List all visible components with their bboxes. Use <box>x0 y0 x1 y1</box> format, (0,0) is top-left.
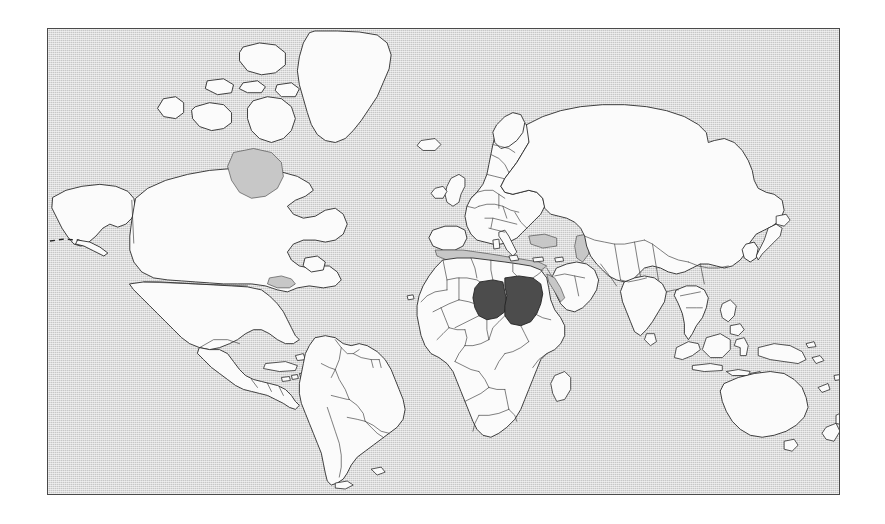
landmass-arctic-islet-b <box>240 81 266 93</box>
page-title: World locator map <box>0 21 1 22</box>
landmass-cyprus <box>555 257 564 262</box>
landmass-cuba <box>263 362 297 372</box>
landmass-borneo <box>702 334 730 358</box>
landmass-iceland <box>417 139 441 151</box>
landmass-ireland <box>431 186 447 198</box>
landmass-greenland <box>297 31 391 143</box>
landmass-sulawesi <box>734 338 748 356</box>
landmass-madagascar <box>551 372 571 402</box>
landmass-pacific-islet-a <box>806 342 816 348</box>
landmass-victoria-island <box>192 103 232 131</box>
landmass-lesser-sunda <box>726 370 750 376</box>
region-africa <box>407 258 571 437</box>
landmass-sri-lanka <box>644 334 656 346</box>
landmass-iberia <box>429 226 467 250</box>
landmass-indian-subcontinent <box>621 276 667 336</box>
world-map-svg <box>48 29 839 494</box>
landmass-new-caledonia <box>818 383 830 392</box>
landmass-new-zealand-south <box>822 423 839 441</box>
landmass-arctic-islet-c <box>275 83 299 97</box>
landmass-hokkaido <box>776 214 790 226</box>
landmass-banks-island <box>158 97 184 119</box>
landmass-sardinia-corsica <box>493 239 500 249</box>
landmass-sicily <box>509 255 519 261</box>
landmass-sumatra <box>674 342 700 360</box>
region-south-america <box>291 336 405 489</box>
landmass-philippines <box>720 300 736 322</box>
landmass-ellesmere-island <box>240 43 286 75</box>
landmass-alaska <box>52 184 136 246</box>
landmass-fiji <box>834 375 839 381</box>
landmass-philippines-south <box>730 324 744 336</box>
landmass-jamaica <box>281 377 290 382</box>
landmass-solomon-islands <box>812 356 824 364</box>
landmass-baffin-island <box>247 97 295 143</box>
landmass-tierra-del-fuego <box>335 481 353 489</box>
water-black-sea <box>529 234 557 248</box>
landmass-australia <box>720 372 808 438</box>
landmass-galapagos <box>291 375 298 380</box>
landmass-tasmania <box>784 439 798 451</box>
landmass-great-britain <box>445 174 465 206</box>
world-map-figure <box>47 28 840 495</box>
landmass-cape-verde <box>407 295 414 300</box>
page-root: World locator map <box>0 0 885 524</box>
landmass-crete <box>533 257 544 262</box>
landmass-northern-asia <box>501 105 784 282</box>
landmass-new-zealand-north <box>836 411 839 425</box>
landmass-new-guinea <box>758 344 806 364</box>
landmass-south-america <box>299 336 405 485</box>
landmass-arctic-islet-a <box>206 79 234 95</box>
landmass-falkland-islands <box>371 467 385 475</box>
landmass-aleutian-chain <box>76 240 108 256</box>
highlight-country-chad[interactable] <box>473 280 507 320</box>
landmass-java <box>692 364 722 372</box>
